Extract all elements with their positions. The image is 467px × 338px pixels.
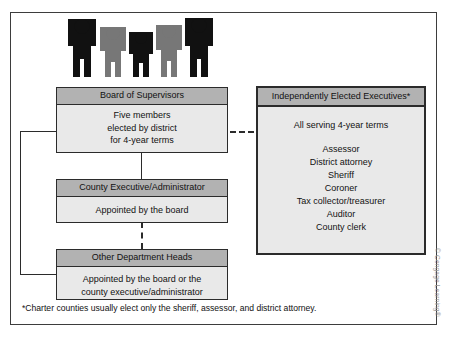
elected-office: Assessor — [261, 143, 421, 156]
box-board-body: Five members elected by district for 4-y… — [57, 105, 227, 151]
box-other-department-heads[interactable]: Other Department Heads Appointed by the … — [56, 249, 228, 300]
box-executive-title: County Executive/Administrator — [57, 180, 227, 197]
person-icon — [129, 32, 153, 77]
people-group-icon — [68, 13, 208, 77]
box-departments-title: Other Department Heads — [57, 250, 227, 267]
box-board-line: Five members — [60, 109, 224, 122]
panel-executives-body: All serving 4-year terms Assessor Distri… — [258, 107, 424, 238]
figure-canvas: Board of Supervisors Five members electe… — [0, 0, 467, 338]
box-board-title: Board of Supervisors — [57, 88, 227, 105]
elected-office: Tax collector/treasurer — [261, 195, 421, 208]
elected-office: County clerk — [261, 221, 421, 234]
panel-independently-elected-executives[interactable]: Independently Elected Executives* All se… — [256, 86, 426, 255]
box-departments-line: Appointed by the board or the — [60, 273, 224, 286]
box-departments-body: Appointed by the board or the county exe… — [57, 267, 227, 302]
copyright-credit: © Cengage Learning® — [434, 248, 441, 317]
box-executive-line: Appointed by the board — [60, 204, 224, 217]
elected-office: Auditor — [261, 208, 421, 221]
person-icon — [68, 19, 96, 77]
box-board-of-supervisors[interactable]: Board of Supervisors Five members electe… — [56, 87, 228, 153]
person-icon — [185, 18, 213, 77]
elected-office: District attorney — [261, 156, 421, 169]
connector-board-to-elected — [230, 131, 254, 133]
panel-executives-title: Independently Elected Executives* — [258, 88, 424, 107]
connector-board-to-executive — [141, 152, 142, 180]
panel-executives-lead: All serving 4-year terms — [261, 119, 421, 132]
box-departments-line: county executive/administrator — [60, 286, 224, 299]
box-board-line: for 4-year terms — [60, 134, 224, 147]
connector-executive-to-departments — [141, 222, 143, 249]
person-icon — [100, 27, 126, 77]
figure-footnote: *Charter counties usually elect only the… — [22, 303, 422, 314]
person-icon — [156, 25, 182, 77]
box-board-line: elected by district — [60, 122, 224, 135]
connector-board-to-departments-bracket — [20, 131, 56, 275]
elected-office: Sheriff — [261, 169, 421, 182]
box-executive-body: Appointed by the board — [57, 197, 227, 221]
elected-office: Coroner — [261, 182, 421, 195]
box-county-executive[interactable]: County Executive/Administrator Appointed… — [56, 179, 228, 223]
